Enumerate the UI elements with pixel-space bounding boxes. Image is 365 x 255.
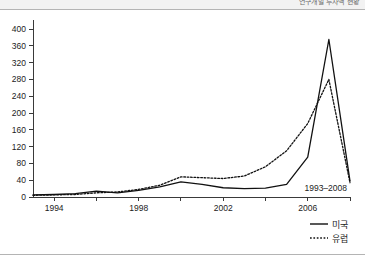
y-tick-label: 200 xyxy=(12,108,26,118)
legend: 미국 유럽 xyxy=(310,220,348,244)
legend-label-0: 미국 xyxy=(332,220,348,230)
header-title: 연구개발 투자액 현황 xyxy=(299,0,359,6)
y-axis-ticks: 04080120160200240280320360400 xyxy=(12,24,33,202)
y-tick-label: 240 xyxy=(12,91,26,101)
screenshot-root: 연구개발 투자액 현황 0408012016020024028032036040… xyxy=(0,0,365,255)
y-tick-label: 400 xyxy=(12,24,26,34)
y-tick-label: 0 xyxy=(21,192,26,202)
y-tick-label: 360 xyxy=(12,41,26,51)
x-tick-label: 1994 xyxy=(45,203,64,213)
series-line-유럽 xyxy=(33,79,350,195)
y-tick-label: 80 xyxy=(17,158,27,168)
x-axis-ticks: 1994199820022006 xyxy=(45,197,350,213)
x-tick-label: 2006 xyxy=(298,203,317,213)
y-tick-label: 40 xyxy=(17,175,27,185)
line-chart: 04080120160200240280320360400 1994199820… xyxy=(0,9,365,254)
y-tick-label: 280 xyxy=(12,74,26,84)
legend-label-1: 유럽 xyxy=(332,234,348,244)
range-annotation: 1993–2008 xyxy=(304,183,347,193)
y-tick-label: 160 xyxy=(12,125,26,135)
x-tick-label: 2002 xyxy=(214,203,233,213)
series-line-미국 xyxy=(33,40,350,195)
chart-area: 04080120160200240280320360400 1994199820… xyxy=(0,9,365,254)
y-tick-label: 120 xyxy=(12,142,26,152)
x-tick-label: 1998 xyxy=(129,203,148,213)
y-tick-label: 320 xyxy=(12,58,26,68)
